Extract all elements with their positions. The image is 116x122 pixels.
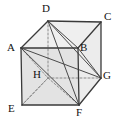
vertex-label-g: G (103, 70, 111, 81)
vertex-label-f: F (76, 107, 82, 118)
cube-svg (0, 0, 116, 122)
vertex-label-a: A (7, 42, 15, 53)
vertex-label-h: H (33, 69, 41, 80)
vertex-label-c: C (104, 11, 111, 22)
cube-figure: ABCDEFGH (0, 0, 116, 122)
vertex-label-b: B (80, 42, 87, 53)
vertex-label-d: D (42, 3, 50, 14)
vertex-label-e: E (8, 103, 15, 114)
